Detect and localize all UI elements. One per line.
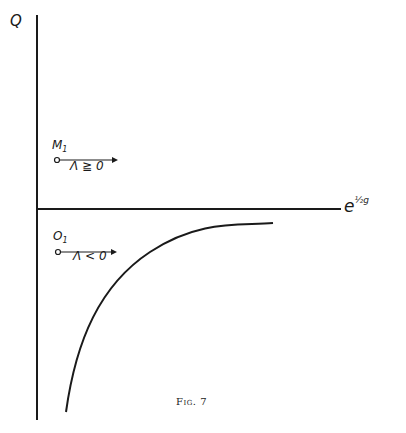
x-axis-label: e½g (344, 195, 369, 216)
figure-diagram (0, 0, 406, 433)
lambda-condition-2: Λ < 0 (73, 249, 107, 263)
figure-caption: Fig. 7 (176, 396, 207, 407)
point-m1-label: M1 (52, 138, 67, 154)
y-axis-label: Q (10, 12, 22, 30)
lambda-condition-1: Λ ≧ 0 (70, 159, 104, 173)
point-o1-label: O1 (53, 229, 68, 245)
